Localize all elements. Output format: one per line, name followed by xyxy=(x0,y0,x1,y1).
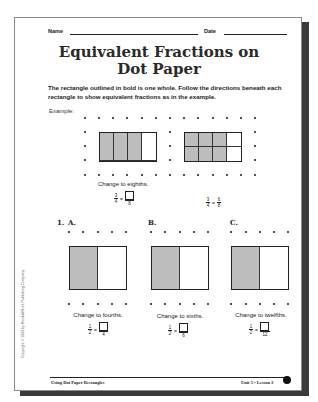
directions-text: The rectangle outlined in bold is one wh… xyxy=(48,84,288,101)
grid-dot xyxy=(155,174,156,175)
grid-dot xyxy=(230,231,231,232)
grid-dot xyxy=(169,174,170,175)
problem-number: 1. xyxy=(57,218,64,227)
equals-sign: = xyxy=(212,200,215,206)
problem-b-fraction: 1 2 = 6 xyxy=(168,323,188,338)
grid-dot xyxy=(193,303,194,304)
fraction-1-2: 1 2 xyxy=(88,324,92,335)
grid-dot xyxy=(226,117,227,118)
denominator: 2 xyxy=(250,330,253,335)
equals-sign: = xyxy=(174,328,177,334)
footer-unit-lesson: Unit 5 • Lesson 3 xyxy=(241,380,273,385)
answer-fraction: 6 xyxy=(179,323,188,338)
example-fraction-question: 3 4 = 8 xyxy=(114,191,134,206)
rect-cell xyxy=(227,147,241,161)
answer-box[interactable] xyxy=(99,322,108,331)
grid-dot xyxy=(112,117,113,118)
example-caption: Change to eighths. xyxy=(98,181,168,187)
grid-dot xyxy=(84,145,85,146)
rect-cell-shaded xyxy=(185,147,199,161)
answer-fraction: 8 xyxy=(125,191,134,206)
rect-cell-shaded xyxy=(100,133,114,161)
grid-dot xyxy=(197,174,198,175)
rect-cell xyxy=(227,133,241,147)
grid-dot xyxy=(150,303,151,304)
grid-dot xyxy=(84,159,85,160)
grid-dot xyxy=(245,303,246,304)
problem-a-label: A. xyxy=(68,218,76,227)
grid-dot xyxy=(169,117,170,118)
rect-cell xyxy=(142,133,156,161)
problem-a-caption: Change to fourths. xyxy=(66,312,130,318)
grid-dot xyxy=(126,117,127,118)
grid-dot xyxy=(254,159,255,160)
page-title-line1: Equivalent Fractions on xyxy=(0,44,318,61)
rect-cell-shaded xyxy=(213,133,227,147)
fraction-3-4: 3 4 xyxy=(206,197,210,208)
denominator: 8 xyxy=(218,203,221,208)
grid-dot xyxy=(82,303,83,304)
grid-dot xyxy=(169,131,170,132)
grid-dot xyxy=(169,159,170,160)
grid-dot xyxy=(164,303,165,304)
grid-dot xyxy=(240,117,241,118)
grid-dot xyxy=(240,174,241,175)
grid-dot xyxy=(287,231,288,232)
rect-cell xyxy=(260,247,288,289)
copyright-text: Copyright © 1993 by Kendall/Hunt Publish… xyxy=(21,270,25,358)
grid-dot xyxy=(84,117,85,118)
grid-dot xyxy=(82,231,83,232)
denominator: 4 xyxy=(115,199,118,204)
grid-dot xyxy=(230,303,231,304)
grid-dot xyxy=(111,231,112,232)
grid-dot xyxy=(179,231,180,232)
grid-dot xyxy=(259,303,260,304)
rect-cell-shaded xyxy=(152,247,180,289)
rect-cell xyxy=(98,247,126,289)
problem-a-rectangle[interactable] xyxy=(69,246,127,290)
rect-cell xyxy=(180,247,208,289)
grid-dot xyxy=(169,145,170,146)
rect-cell-shaded xyxy=(199,133,213,147)
grid-dot xyxy=(111,303,112,304)
rect-cell-shaded xyxy=(185,133,199,147)
grid-dot xyxy=(207,231,208,232)
equals-sign: = xyxy=(255,327,258,333)
date-label: Date xyxy=(204,28,216,34)
rect-cell-shaded xyxy=(213,147,227,161)
rect-cell-shaded xyxy=(128,133,142,161)
grid-dot xyxy=(97,231,98,232)
problem-b-label: B. xyxy=(148,218,156,227)
footer-lesson-title: Using Dot Paper Rectangles xyxy=(51,380,105,385)
name-label: Name xyxy=(48,28,63,34)
answer-box[interactable] xyxy=(179,323,188,332)
grid-dot xyxy=(273,231,274,232)
grid-dot xyxy=(226,174,227,175)
fraction-1-2: 1 2 xyxy=(249,324,253,335)
grid-dot xyxy=(112,174,113,175)
grid-dot xyxy=(254,131,255,132)
fraction-6-8: 6 8 xyxy=(217,197,221,208)
grid-dot xyxy=(141,117,142,118)
grid-dot xyxy=(141,174,142,175)
problem-c-rectangle[interactable] xyxy=(231,246,289,290)
rect-cell-shaded xyxy=(199,147,213,161)
problem-c-fraction: 1 2 = 12 xyxy=(249,322,270,337)
answer-box[interactable] xyxy=(125,191,134,200)
grid-dot xyxy=(155,117,156,118)
problem-b-caption: Change to sixths. xyxy=(145,313,215,319)
grid-dot xyxy=(212,117,213,118)
footer-bullet-icon xyxy=(283,376,291,384)
example-fraction-answer: 3 4 = 6 8 xyxy=(206,197,221,208)
grid-dot xyxy=(183,174,184,175)
grid-dot xyxy=(125,303,126,304)
example-rectangle-fourths xyxy=(99,132,157,162)
grid-dot xyxy=(179,303,180,304)
answer-box[interactable] xyxy=(260,322,269,331)
grid-dot xyxy=(84,131,85,132)
answer-fraction: 4 xyxy=(99,322,108,337)
denominator: 6 xyxy=(182,333,185,338)
example-rectangle-eighths xyxy=(184,132,242,162)
answer-fraction: 12 xyxy=(260,322,270,337)
problem-b-rectangle[interactable] xyxy=(151,246,209,290)
